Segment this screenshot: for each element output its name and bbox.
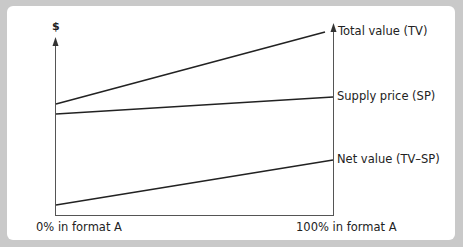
label-net-value: Net value (TV–SP) [337, 154, 440, 166]
line-supply-price [56, 97, 333, 114]
right-axis-arrow-icon [331, 23, 337, 32]
label-supply-price: Supply price (SP) [337, 91, 435, 103]
label-total-value: Total value (TV) [338, 26, 427, 38]
left-axis-arrow-icon [53, 37, 59, 46]
x-label-right: 100% in format A [296, 222, 397, 234]
line-net-value [56, 160, 333, 205]
x-label-left: 0% in format A [36, 222, 122, 234]
y-axis-label: $ [52, 21, 60, 32]
line-total-value [56, 32, 325, 104]
